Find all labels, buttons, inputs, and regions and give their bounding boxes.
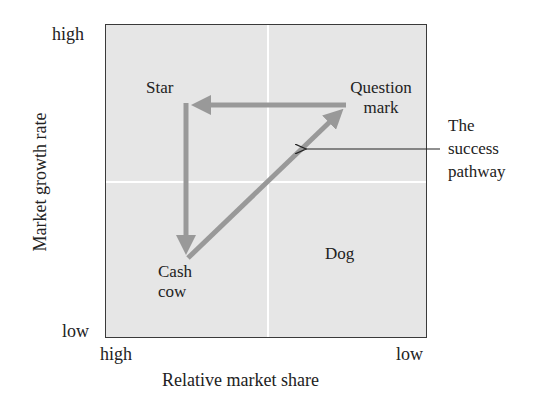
- y-axis-low-label: low: [62, 321, 89, 341]
- question-mark-line-1: Question: [336, 78, 426, 98]
- arrow-cashcow-to-question: [188, 115, 337, 258]
- quadrant-label-question-mark: Question mark: [336, 78, 426, 118]
- quadrant-label-star: Star: [146, 78, 173, 98]
- quadrant-label-cash-cow: Cash cow: [158, 262, 192, 302]
- matrix-graphics: [0, 0, 559, 409]
- cash-cow-line-2: cow: [158, 282, 192, 302]
- annotation-line-1: The: [448, 114, 506, 137]
- annotation-line-2: success: [448, 137, 506, 160]
- annotation-line-3: pathway: [448, 160, 506, 183]
- question-mark-line-2: mark: [336, 98, 426, 118]
- x-axis-high-label: high: [100, 344, 132, 364]
- y-axis-high-label: high: [52, 24, 84, 44]
- y-axis-title: Market growth rate: [30, 113, 51, 252]
- x-axis-low-label: low: [396, 344, 423, 364]
- success-pathway-annotation: The success pathway: [448, 114, 506, 183]
- cash-cow-line-1: Cash: [158, 262, 192, 282]
- quadrant-label-dog: Dog: [325, 244, 354, 264]
- x-axis-title: Relative market share: [162, 370, 319, 390]
